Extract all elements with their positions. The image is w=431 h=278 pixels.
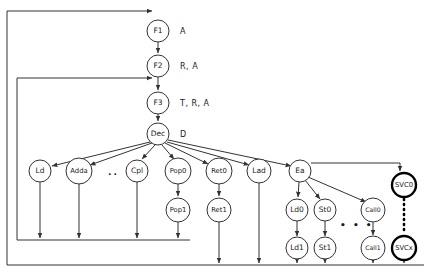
node-label: F3 — [153, 98, 162, 107]
node-st1[interactable]: St1 — [314, 237, 336, 259]
node-label: F2 — [153, 61, 162, 70]
ea-fanout — [298, 163, 400, 202]
node-label: Dec — [151, 129, 166, 138]
node-f3[interactable]: F3 — [147, 92, 169, 114]
diagram-canvas: F1F2F3DecLdAddaCplPop0Ret0LadEaPop1Ret1L… — [0, 0, 431, 278]
node-label: Pop0 — [170, 167, 187, 175]
node-label: St1 — [319, 243, 332, 252]
node-label: Call0 — [365, 206, 381, 213]
node-label: St0 — [319, 205, 332, 214]
node-st0[interactable]: St0 — [314, 199, 336, 221]
node-label: Ret1 — [211, 206, 227, 214]
node-label: Ld1 — [290, 243, 304, 252]
node-svc0[interactable]: SVC0 — [392, 173, 416, 197]
node-label: Ld0 — [290, 205, 304, 214]
node-ret1[interactable]: Ret1 — [207, 198, 231, 222]
node-cpl[interactable]: Cpl — [126, 160, 148, 182]
node-ld[interactable]: Ld — [29, 160, 51, 182]
decode-row-ellipsis: .. — [108, 167, 119, 177]
node-label: Ea — [295, 166, 304, 175]
node-f2[interactable]: F2 — [147, 55, 169, 77]
second-row-ellipsis: • • • — [340, 220, 374, 230]
node-call0[interactable]: Call0 — [361, 198, 385, 222]
node-pop1[interactable]: Pop1 — [166, 198, 190, 222]
node-label: SVCx — [395, 244, 413, 252]
node-ret0[interactable]: Ret0 — [206, 158, 232, 184]
node-label: Cpl — [131, 166, 143, 175]
node-ld0[interactable]: Ld0 — [286, 199, 308, 221]
node-adda[interactable]: Adda — [66, 158, 92, 184]
node-label: Pop1 — [170, 206, 187, 214]
node-label: Call1 — [365, 244, 381, 251]
third-row-drops — [297, 259, 404, 263]
node-pop0[interactable]: Pop0 — [165, 158, 191, 184]
stage-side-label-dec: D — [180, 130, 187, 139]
node-label: Ret0 — [211, 167, 227, 175]
node-svcx[interactable]: SVCx — [392, 236, 416, 260]
node-label: F1 — [153, 26, 162, 35]
stage-side-label-f2: R, A — [180, 62, 198, 71]
node-label: Lad — [252, 166, 266, 175]
stage-side-label-f3: T, R, A — [179, 99, 210, 108]
node-dec[interactable]: Dec — [147, 123, 169, 145]
node-lad[interactable]: Lad — [247, 159, 271, 183]
node-call1[interactable]: Call1 — [361, 236, 385, 260]
node-ea[interactable]: Ea — [289, 160, 311, 182]
node-ld1[interactable]: Ld1 — [286, 237, 308, 259]
node-f1[interactable]: F1 — [147, 20, 169, 42]
node-label: Ld — [36, 166, 45, 175]
stage-side-label-f1: A — [180, 27, 186, 36]
decode-row-drops — [40, 182, 259, 263]
flow-graph-svg: F1F2F3DecLdAddaCplPop0Ret0LadEaPop1Ret1L… — [0, 0, 431, 278]
node-label: SVC0 — [395, 181, 413, 189]
node-label: Adda — [70, 167, 87, 175]
